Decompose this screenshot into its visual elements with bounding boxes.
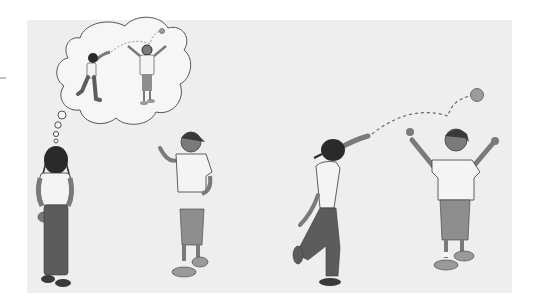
illustration	[0, 0, 539, 308]
ball	[471, 89, 484, 102]
mini-ball	[159, 28, 164, 33]
